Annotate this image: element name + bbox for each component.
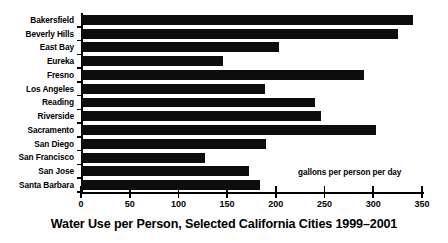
x-axis-tick-label: 250 (317, 199, 332, 209)
x-axis-tick (178, 186, 180, 198)
bar (82, 70, 364, 80)
bar (82, 42, 279, 52)
bar (82, 29, 398, 39)
bar (82, 139, 266, 149)
bar-row (82, 98, 423, 108)
x-axis-tick-label: 100 (171, 199, 186, 209)
y-axis-label-beverly-hills: Beverly Hills (0, 27, 78, 41)
bar (82, 15, 413, 25)
x-axis-tick (275, 186, 277, 198)
x-axis-tick-label: 200 (268, 199, 283, 209)
bar (82, 98, 315, 108)
y-axis-label-san-francisco: San Francisco (0, 151, 78, 165)
x-axis-tick (372, 186, 374, 198)
bar-row (82, 56, 423, 66)
bar-row (82, 153, 423, 163)
bar-row (82, 42, 423, 52)
bar (82, 56, 223, 66)
bar-chart: BakersfieldBeverly HillsEast BayEurekaFr… (0, 0, 448, 243)
y-axis-tick (77, 40, 83, 42)
bar-row (82, 84, 423, 94)
y-axis-label-east-bay: East Bay (0, 41, 78, 55)
y-axis-tick (77, 81, 83, 83)
bar-row (82, 125, 423, 135)
y-axis-label-sacramento: Sacramento (0, 123, 78, 137)
y-axis-label-bakersfield: Bakersfield (0, 13, 78, 27)
y-axis-tick (77, 177, 83, 179)
y-axis-label-reading: Reading (0, 96, 78, 110)
y-axis-label-eureka: Eureka (0, 54, 78, 68)
y-axis-tick (77, 26, 83, 28)
y-axis-tick (77, 122, 83, 124)
y-axis-label-san-jose: San Jose (0, 164, 78, 178)
y-axis-tick (77, 136, 83, 138)
x-axis-tick (324, 186, 326, 198)
y-axis-label-riverside: Riverside (0, 109, 78, 123)
y-axis-category-labels: BakersfieldBeverly HillsEast BayEurekaFr… (0, 13, 78, 192)
x-axis-tick-label: 50 (125, 199, 135, 209)
bar-row (82, 111, 423, 121)
bar (82, 111, 321, 121)
bar-row (82, 70, 423, 80)
unit-annotation: gallons per person per day (298, 168, 401, 177)
x-axis-tick-label: 300 (366, 199, 381, 209)
x-axis-tick-label: 150 (220, 199, 235, 209)
y-axis-label-santa-barbara: Santa Barbara (0, 178, 78, 192)
bar-row (82, 29, 423, 39)
bar (82, 180, 260, 190)
y-axis-tick (77, 67, 83, 69)
x-axis-tick (421, 186, 423, 198)
y-axis-label-fresno: Fresno (0, 68, 78, 82)
y-axis-tick (77, 109, 83, 111)
bar (82, 125, 376, 135)
y-axis-tick (77, 95, 83, 97)
y-axis-label-los-angeles: Los Angeles (0, 82, 78, 96)
chart-title: Water Use per Person, Selected Californi… (0, 217, 448, 231)
bar (82, 166, 249, 176)
y-axis-tick (77, 191, 83, 193)
y-axis-tick (77, 150, 83, 152)
x-axis-tick (226, 186, 228, 198)
y-axis-tick (77, 54, 83, 56)
x-axis-tick-label: 0 (78, 199, 83, 209)
plot-area (82, 13, 423, 192)
x-axis-tick-label: 350 (414, 199, 429, 209)
y-axis-tick (77, 164, 83, 166)
bar (82, 84, 265, 94)
bar (82, 153, 205, 163)
y-axis-label-san-diego: San Diego (0, 137, 78, 151)
bar-row (82, 15, 423, 25)
x-axis-tick (129, 186, 131, 198)
bar-row (82, 139, 423, 149)
